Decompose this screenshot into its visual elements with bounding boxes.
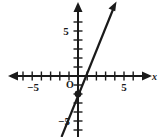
point-marker-y-intercept [75, 91, 82, 98]
origin-label: O [66, 79, 74, 90]
coordinate-plane-figure: x O −5 5 5 −5 [0, 0, 161, 137]
x-tick-label-neg5: −5 [27, 81, 39, 93]
x-axis-left-arrow-icon [8, 72, 18, 81]
y-tick-label-5: 5 [63, 25, 69, 37]
x-tick-label-5: 5 [121, 81, 127, 93]
y-axis [74, 2, 83, 137]
x-axis-label: x [151, 71, 157, 82]
x-axis [8, 72, 152, 81]
x-axis-right-arrow-icon [142, 72, 152, 81]
y-axis-up-arrow-icon [74, 2, 83, 12]
y-tick-label-neg5: −5 [58, 115, 70, 127]
line-arrow-icon [109, 2, 117, 12]
graph-canvas: x O −5 5 5 −5 [0, 0, 161, 137]
